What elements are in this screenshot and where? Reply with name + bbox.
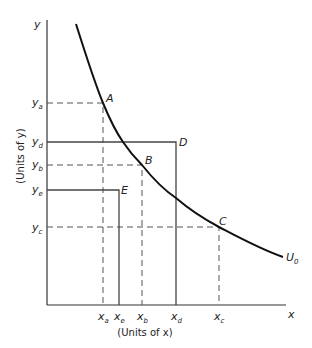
tick-y-b: yb: [31, 158, 44, 173]
bundle-D-lines: [47, 142, 176, 305]
x-axis-label: x: [287, 308, 295, 321]
tick-x-c: xc: [213, 310, 225, 325]
tick-y-d: yd: [31, 135, 44, 150]
label-D: D: [179, 136, 187, 149]
axes: y x: [33, 18, 295, 321]
guide-A: [47, 103, 103, 305]
indifference-curve-diagram: y x A B C D E U0 ya yd yb ye yc xa xe xb…: [0, 0, 312, 348]
label-B: B: [145, 154, 153, 167]
tick-x-d: xd: [170, 310, 183, 325]
bundle-E-lines: [47, 190, 119, 305]
tick-y-a: ya: [31, 96, 43, 111]
tick-x-a: xa: [97, 310, 109, 325]
x-tick-labels: xa xe xb xd xc: [97, 310, 225, 325]
solid-bundles: [47, 142, 176, 305]
label-U0: U0: [286, 251, 299, 266]
label-C: C: [219, 215, 227, 228]
tick-y-c: yc: [31, 221, 43, 236]
point-labels: A B C D E U0: [105, 92, 299, 266]
dashed-guides: [47, 103, 219, 305]
tick-x-b: xb: [136, 310, 149, 325]
guide-C: [47, 227, 219, 305]
tick-y-e: ye: [31, 183, 43, 198]
tick-x-e: xe: [113, 310, 125, 325]
y-tick-labels: ya yd yb ye yc: [31, 96, 44, 236]
x-axis-caption: (Units of x): [117, 327, 172, 338]
label-A: A: [105, 92, 114, 105]
y-axis-caption: (Units of y): [15, 128, 26, 183]
y-axis-label: y: [33, 18, 41, 31]
label-E: E: [121, 184, 128, 197]
